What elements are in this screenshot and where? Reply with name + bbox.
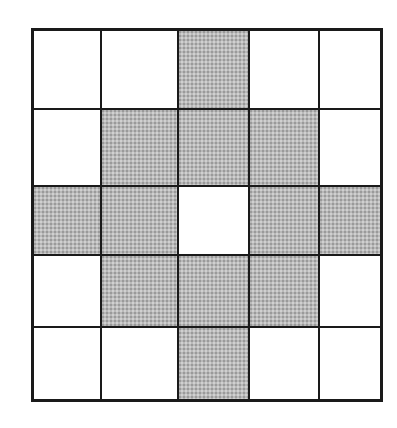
grid-cell-r3-c2-shaded (179, 256, 250, 328)
grid-cell-r0-c1-empty (102, 31, 179, 110)
grid-cell-r1-c4-empty (320, 110, 380, 187)
grid-cell-r4-c2-shaded (179, 328, 250, 399)
grid-cell-r2-c3-shaded (250, 187, 320, 256)
grid-cell-r3-c4-empty (320, 256, 380, 328)
grid-cell-r4-c0-empty (34, 328, 102, 399)
grid-cell-r4-c4-empty (320, 328, 380, 399)
five-by-five-grid (31, 28, 383, 402)
grid-cell-r1-c0-empty (34, 110, 102, 187)
grid-cell-r0-c4-empty (320, 31, 380, 110)
grid-cell-r1-c1-shaded (102, 110, 179, 187)
grid-cell-r3-c1-shaded (102, 256, 179, 328)
grid-cell-r3-c3-shaded (250, 256, 320, 328)
grid-cell-r3-c0-empty (34, 256, 102, 328)
grid-cell-r2-c4-shaded (320, 187, 380, 256)
grid-cell-r0-c2-shaded (179, 31, 250, 110)
grid-cell-r4-c3-empty (250, 328, 320, 399)
grid-cell-r0-c3-empty (250, 31, 320, 110)
grid-cell-r1-c2-shaded (179, 110, 250, 187)
grid-cell-r0-c0-empty (34, 31, 102, 110)
grid-cell-r2-c2-empty (179, 187, 250, 256)
grid-cell-r2-c0-shaded (34, 187, 102, 256)
grid-cell-r2-c1-shaded (102, 187, 179, 256)
grid-cell-r1-c3-shaded (250, 110, 320, 187)
grid-cell-r4-c1-empty (102, 328, 179, 399)
